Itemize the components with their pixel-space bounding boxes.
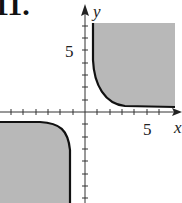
x-tick-label: 5: [143, 120, 152, 139]
x-axis-label: x: [173, 118, 182, 137]
y-axis-label: y: [91, 2, 101, 21]
q3-shaded-region: [0, 122, 70, 203]
inequality-graph: 5 5 y x: [0, 0, 182, 203]
y-tick-label: 5: [65, 42, 74, 61]
